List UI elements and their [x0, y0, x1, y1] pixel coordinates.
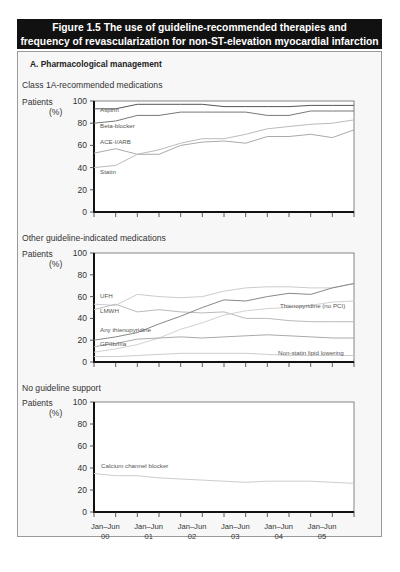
- y-axis-label-unit: (%): [49, 107, 62, 117]
- y-tick-label: 20: [78, 335, 88, 345]
- series-label: Non-statin lipid lowering: [278, 349, 344, 356]
- x-tick-label-year: 04: [274, 532, 282, 541]
- y-axis-label-unit: (%): [49, 408, 62, 418]
- y-tick-label: 0: [82, 357, 87, 367]
- y-tick-label: 20: [78, 185, 88, 195]
- x-tick-label-year: 05: [318, 532, 326, 541]
- x-tick-label: Jan–Jun: [221, 522, 250, 531]
- charts-canvas: 020406080100Patients(%)AspirinBeta-block…: [0, 0, 400, 572]
- y-tick-label: 20: [78, 485, 88, 495]
- x-tick-label-year: 00: [101, 532, 109, 541]
- y-tick-label: 60: [78, 441, 88, 451]
- x-tick-label: Jan–Jun: [134, 522, 163, 531]
- y-tick-label: 100: [73, 248, 87, 258]
- x-tick-label-year: 02: [188, 532, 196, 541]
- y-tick-label: 40: [78, 313, 88, 323]
- y-tick-label: 60: [78, 140, 88, 150]
- y-axis-label: Patients: [22, 398, 53, 408]
- series-label: Aspirin: [100, 106, 119, 113]
- series-label: LMWH: [100, 307, 119, 314]
- series-label: GPIIb/IIIa: [100, 340, 127, 347]
- y-tick-label: 40: [78, 163, 88, 173]
- plot-area: [94, 402, 354, 512]
- x-tick-label: Jan–Jun: [308, 522, 337, 531]
- y-tick-label: 80: [78, 419, 88, 429]
- series-label: Thienopyridine (no PCI): [280, 302, 345, 309]
- y-tick-label: 100: [73, 397, 87, 407]
- x-tick-label: Jan–Jun: [264, 522, 293, 531]
- series-label: Beta-blocker: [100, 122, 135, 129]
- y-tick-label: 0: [82, 207, 87, 217]
- series-label: UFH: [100, 292, 113, 299]
- y-axis-label: Patients: [22, 249, 53, 259]
- series-label: Calcium channel blocker: [101, 462, 168, 469]
- y-tick-label: 100: [73, 96, 87, 106]
- y-tick-label: 80: [78, 270, 88, 280]
- x-tick-label: Jan–Jun: [178, 522, 207, 531]
- y-tick-label: 60: [78, 292, 88, 302]
- series-label: Statin: [100, 168, 116, 175]
- x-tick-label-year: 03: [231, 532, 239, 541]
- x-tick-label: Jan–Jun: [91, 522, 120, 531]
- y-axis-label: Patients: [22, 97, 53, 107]
- y-axis-label-unit: (%): [49, 259, 62, 269]
- series-label: Any thienopyridine: [100, 326, 151, 333]
- series-label: ACE-I/ARB: [100, 138, 131, 145]
- y-tick-label: 0: [82, 507, 87, 517]
- y-tick-label: 40: [78, 463, 88, 473]
- y-tick-label: 80: [78, 118, 88, 128]
- x-tick-label-year: 01: [144, 532, 152, 541]
